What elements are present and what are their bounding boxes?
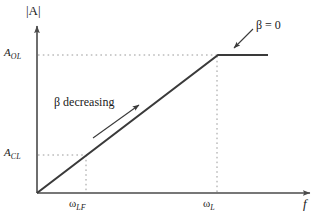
beta-decreasing-label: β decreasing (54, 96, 114, 108)
gain-response-curve (37, 55, 268, 193)
y-tick-acl-subscript: CL (11, 152, 21, 161)
beta-zero-arrow (234, 29, 253, 48)
beta-zero-label: β = 0 (256, 19, 281, 31)
x-tick-omega-lf-subscript: LF (76, 203, 86, 212)
y-axis-label: |A| (26, 4, 41, 17)
y-tick-label-aol: AOL (4, 47, 21, 58)
gain-frequency-plot: |A| f AOL ACL ωLF ωL β decreasing β = 0 (0, 0, 322, 223)
x-tick-label-omega-l: ωL (203, 198, 215, 209)
y-tick-aol-base: A (4, 46, 11, 58)
y-tick-label-acl: ACL (4, 147, 21, 158)
y-tick-aol-subscript: OL (11, 52, 22, 61)
x-axis-label: f (303, 197, 307, 210)
plot-canvas (0, 0, 322, 223)
x-tick-label-omega-lf: ωLF (69, 198, 86, 209)
x-tick-omega-l-subscript: L (210, 203, 215, 212)
y-tick-acl-base: A (4, 146, 11, 158)
